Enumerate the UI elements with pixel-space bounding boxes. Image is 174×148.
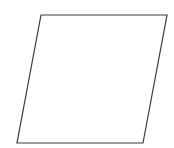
- parallelogram-figure: [0, 0, 174, 148]
- figure-canvas: [0, 0, 174, 148]
- parallelogram-shape: [17, 15, 167, 143]
